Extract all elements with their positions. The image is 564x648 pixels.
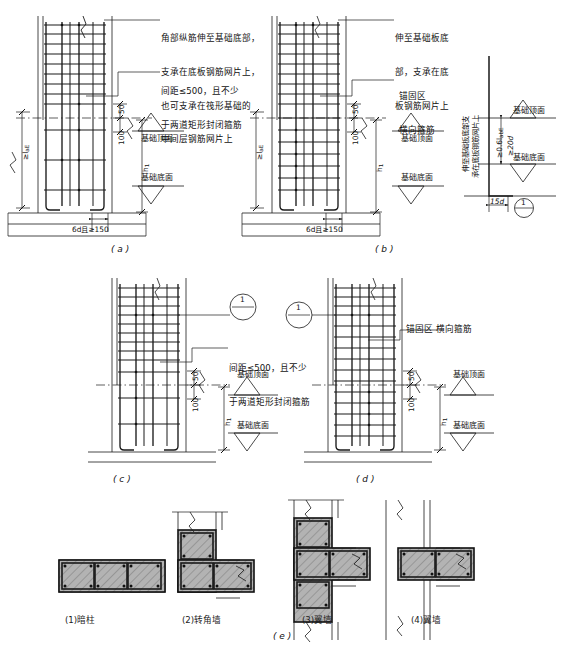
panel-d-level-foundation-bottom: 基础底面 (453, 420, 485, 431)
panel-a-stirrup-spacing-note: 间距≤500，且不少 于两道矩形封闭箍筋 (161, 64, 242, 154)
detail-1-callout-number: 1 (521, 197, 526, 208)
panel-c-level-foundation-top: 基础顶面 (237, 369, 269, 380)
panel-b-level-foundation-top: 基础顶面 (401, 133, 433, 144)
panel-b-dim-100: 100 (350, 131, 361, 145)
panel-b-dim-50: 50 (350, 105, 361, 114)
detail-1-extend-note-line2: 承在底板钢筋网片上 (470, 115, 481, 178)
section-2-linework (172, 512, 254, 598)
panel-b-dim-foundation-depth: h1 (374, 164, 387, 172)
panel-c-level-foundation-bottom: 基础底面 (237, 420, 269, 431)
detail-1-level-foundation-top: 基础顶面 (513, 105, 545, 116)
panel-a-dim-50: 50 (116, 105, 127, 114)
panel-d-dim-100: 100 (406, 398, 417, 412)
section-e-label: ( e ) (273, 631, 291, 641)
panel-d-dim-50: 50 (406, 372, 417, 381)
panel-b-label: ( b ) (375, 244, 393, 254)
panel-a-level-foundation-bottom: 基础底面 (141, 172, 173, 183)
panel-c-label: ( c ) (113, 474, 131, 484)
panel-a-dim-foundation-depth: h1 (140, 164, 153, 172)
panel-d-dim-foundation-depth: h1 (438, 418, 451, 426)
panel-d-anchorage-zone-note: 锚固区 横向箍筋 (406, 324, 472, 335)
panel-a-label: ( a ) (111, 244, 129, 254)
panel-b-anchorage-zone-note: 锚固区 横向箍筋 (399, 69, 435, 159)
panel-c-dim-50: 50 (190, 372, 201, 381)
panel-a-dim-bend-length: 6d且≥150 (72, 224, 109, 235)
drawing-linework (0, 0, 564, 648)
section-2-caption: (2)转角墙 (182, 613, 221, 625)
panel-c-stirrup-spacing-note: 间距≤500，且不少 于两道矩形封闭箍筋 (229, 341, 310, 431)
panel-b-level-foundation-bottom: 基础底面 (401, 172, 433, 183)
panel-d-label: ( d ) (356, 474, 374, 484)
detail-1-dim-15d: 15d (490, 196, 504, 207)
detail-1-level-foundation-bottom: 基础底面 (513, 152, 545, 163)
panel-b-dim-anchor-length: ≥laE (254, 145, 267, 160)
panel-c-dim-100: 100 (190, 398, 201, 412)
panel-c-dim-foundation-depth: h1 (222, 418, 235, 426)
panel-d-callout-number: 1 (296, 302, 301, 313)
panel-b-dim-bend-length: 6d且≥150 (306, 224, 343, 235)
section-4-caption: (4)翼墙 (411, 613, 441, 625)
section-3-caption: (3)翼墙 (302, 613, 332, 625)
panel-a-dim-anchor-length: ≥laE (20, 145, 33, 160)
section-1-caption: (1)暗柱 (65, 613, 95, 625)
panel-c-callout-number: 1 (240, 294, 245, 305)
panel-a-level-foundation-top: 基础顶面 (141, 133, 173, 144)
panel-d-level-foundation-top: 基础顶面 (453, 369, 485, 380)
drawing-sheet: 角部纵筋伸至基础底部， 支承在底板钢筋网片上， 也可支承在筏形基础的 中间层钢筋… (0, 0, 564, 648)
panel-a-dim-100: 100 (116, 131, 127, 145)
section-1-linework (59, 560, 165, 592)
panel-a-linework (8, 16, 184, 236)
